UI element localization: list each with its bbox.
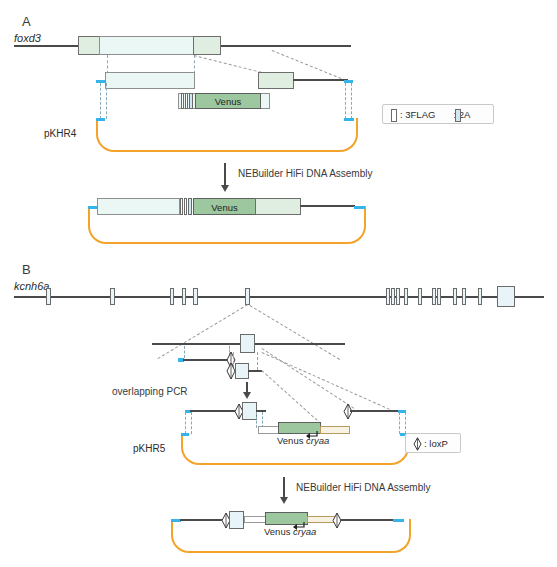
foxd3-exon-left	[78, 36, 100, 55]
assembly-arrow-stem-a	[224, 163, 226, 187]
drop-left-a	[100, 83, 101, 119]
final-b-venus-text: Venus	[264, 526, 290, 537]
2a-tag	[189, 93, 193, 109]
final-b-arm-right	[393, 519, 404, 522]
guide-b-right-2	[262, 352, 395, 412]
legend-loxp: : loxP	[405, 433, 461, 453]
final-a-right-exon	[255, 198, 301, 215]
gene-label-kcnh6a: kcnh6a	[14, 280, 49, 292]
3flag-tag-1	[181, 93, 184, 109]
assembly-arrow-stem-b	[283, 477, 285, 499]
3flag-legend-icon	[391, 109, 397, 122]
pcr-arrow-head	[243, 392, 251, 399]
final-a-venus-label: Venus	[194, 203, 255, 213]
pkhr5-left-line	[190, 410, 238, 412]
legend-label-3flag: : 3FLAG	[400, 109, 435, 120]
kcnh6a-exon-last	[497, 286, 515, 307]
venus-label-a: Venus	[196, 97, 260, 107]
final-a-arm-right	[354, 206, 365, 209]
final-b-utr	[244, 516, 266, 523]
kcnh6a-exon-2	[110, 288, 115, 305]
final-a-2a	[188, 198, 192, 215]
kcnh6a-exon-11	[418, 288, 422, 305]
figure-canvas: A foxd3 Venus pKHR4 : 3FLAG : 2A NEBuild…	[0, 0, 557, 567]
gene-label-foxd3: foxd3	[14, 32, 41, 44]
foxd3-exon-body	[99, 36, 194, 55]
pkhr5-cass-guide-1	[256, 412, 257, 428]
fragment-right-line	[293, 79, 348, 81]
final-a-3flag-1	[180, 198, 183, 215]
plasmid-pkhr4-arm-left	[96, 118, 105, 121]
kcnh6a-exon-5	[193, 288, 198, 305]
final-b-left-line	[180, 519, 225, 521]
kcnh6a-exon-3	[170, 288, 174, 305]
drop-right-a	[345, 83, 346, 119]
kcnh6a-exon-4	[182, 288, 186, 305]
pkhr5-drop-r2	[405, 412, 406, 434]
assembly-arrow-head-a	[221, 185, 229, 192]
pkhr5-drop-l1	[185, 412, 186, 434]
final-b-right-line	[340, 519, 395, 521]
pcr-frag1-line	[183, 359, 231, 361]
panel-letter-a: A	[22, 14, 31, 29]
final-b-cryaa-text: cryaa	[293, 526, 316, 537]
panel-letter-b: B	[22, 262, 31, 277]
loxp-legend-icon	[413, 437, 422, 451]
kcnh6a-exon-1	[46, 288, 51, 305]
kcnh6a-exon-16	[478, 288, 482, 305]
final-a-venus-box: Venus	[193, 198, 256, 215]
pkhr5-backbone-arm-left	[181, 433, 189, 436]
kcnh6a-exon-12	[432, 288, 436, 305]
plasmid-label-pkhr5: pKHR5	[133, 443, 165, 454]
legend-label-loxp: : loxP	[424, 438, 448, 449]
pkhr5-drop-l2	[191, 412, 192, 434]
pcr-frag2-exon	[235, 363, 249, 379]
drop-right-a2	[351, 83, 352, 119]
assembly-arrow-head-b	[280, 497, 288, 504]
step-label-a: NEBuilder HiFi DNA Assembly	[238, 168, 372, 179]
pkhr5-exon	[242, 402, 257, 420]
kcnh6a-exon-9	[396, 288, 400, 305]
final-a-right-line	[300, 205, 355, 207]
kcnh6a-exon-15	[462, 288, 466, 305]
fragment-right-exon	[258, 72, 294, 89]
kcnh6a-exon-6-target	[245, 288, 250, 305]
final-a-left-arm	[97, 198, 180, 215]
step-label-pcr: overlapping PCR	[112, 386, 188, 397]
plasmid-pkhr5	[181, 433, 409, 465]
pcr-guide-1	[184, 346, 185, 358]
drop-left-a2	[106, 83, 107, 119]
final-b-cassette-label: Venus cryaa	[264, 526, 316, 537]
pkhr5-exon-tail	[256, 410, 266, 412]
final-a-3flag-2	[184, 198, 187, 215]
foxd3-exon-right	[193, 36, 221, 55]
plasmid-label-pkhr4: pKHR4	[44, 128, 76, 139]
plasmid-pkhr4	[96, 118, 358, 152]
pkhr5-right-line	[350, 410, 400, 412]
kcnh6a-exon-14	[453, 288, 457, 305]
venus-box-a: Venus	[195, 93, 261, 109]
step-label-b: NEBuilder HiFi DNA Assembly	[296, 482, 430, 493]
2a-legend-icon	[455, 109, 461, 122]
legend-tags: : 3FLAG : 2A	[382, 104, 494, 124]
kcnh6a-exon-13	[437, 288, 441, 305]
fragment-left-arm	[105, 72, 195, 89]
kcnh6a-exon-10	[404, 288, 408, 305]
plasmid-pkhr4-arm-right	[344, 118, 354, 121]
kcnh6a-exon-8	[391, 288, 395, 305]
pkhr5-drop-r1	[399, 412, 400, 434]
pcr-guide-4	[257, 352, 258, 370]
guide-b-right-3	[261, 370, 321, 424]
expanded-target-exon	[240, 334, 255, 353]
3flag-tag-2	[185, 93, 188, 109]
final-b-exon	[229, 511, 244, 529]
kcnh6a-exon-7	[386, 288, 390, 305]
